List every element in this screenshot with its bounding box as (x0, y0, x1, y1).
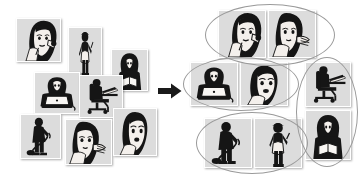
woman-laptop-icon (35, 73, 79, 113)
figure-canvas (0, 0, 362, 180)
person-vacuuming-icon (205, 119, 251, 167)
woman-phone-icon (241, 63, 287, 105)
photo-tile-woman-skincare[interactable] (65, 119, 112, 165)
woman-skincare-icon (66, 120, 111, 164)
photo-tile-woman-phone[interactable] (240, 62, 288, 106)
woman-standing-icon (69, 28, 101, 76)
photo-tile-person-vacuuming[interactable] (204, 118, 252, 168)
transform-arrow (158, 83, 182, 99)
photo-tile-person-vacuuming[interactable] (20, 114, 61, 159)
person-reading-icon (306, 111, 350, 159)
woman-laptop-icon (191, 63, 237, 105)
photo-tile-woman-skincare[interactable] (268, 10, 316, 58)
person-desk-chair-icon (306, 63, 350, 106)
woman-phone-icon (114, 109, 156, 155)
person-vacuuming-icon (21, 115, 60, 158)
woman-eating-icon (17, 19, 60, 61)
photo-tile-woman-eating[interactable] (16, 18, 61, 62)
photo-tile-woman-eating[interactable] (218, 10, 266, 58)
photo-tile-woman-laptop[interactable] (190, 62, 238, 106)
photo-tile-woman-standing[interactable] (254, 118, 302, 168)
photo-tile-woman-phone[interactable] (113, 108, 157, 156)
photo-tile-woman-laptop[interactable] (34, 72, 80, 114)
woman-skincare-icon (269, 11, 315, 57)
photo-tile-woman-standing[interactable] (68, 27, 102, 77)
woman-standing-icon (255, 119, 301, 167)
photo-tile-person-reading[interactable] (305, 110, 351, 160)
photo-tile-person-desk-chair[interactable] (305, 62, 351, 107)
woman-eating-icon (219, 11, 265, 57)
